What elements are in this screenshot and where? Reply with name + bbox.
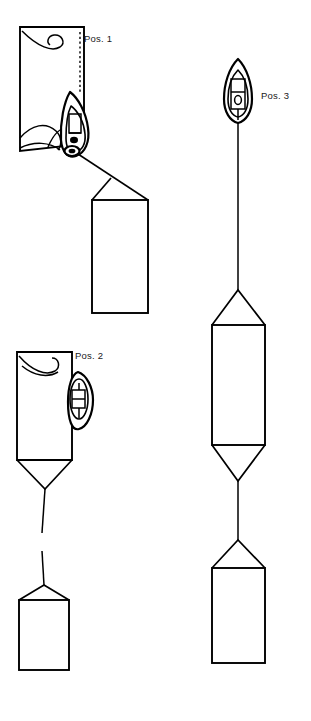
pos3-upper-net-panel [212, 325, 265, 445]
pos1-lower-net-panel [92, 200, 148, 313]
pos3-label: Pos. 3 [261, 90, 289, 101]
pos2-lower-net-panel [19, 600, 69, 670]
pos1-label: Pos. 1 [84, 33, 112, 44]
pos2-label: Pos. 2 [75, 350, 103, 361]
diagram-root: Pos. 1 Pos. 2 Pos. 3 [0, 0, 311, 721]
net-deployment-figure: Pos. 1 Pos. 2 Pos. 3 [0, 0, 311, 721]
pos1-port-marker [70, 137, 78, 143]
pos1-stern-fitting [69, 149, 76, 154]
pos3-lower-net-panel [212, 568, 265, 663]
